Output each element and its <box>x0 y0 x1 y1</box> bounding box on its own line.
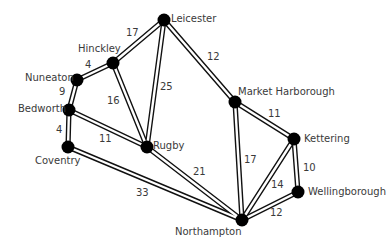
node-label-nuneaton: Nuneaton <box>25 73 74 83</box>
node-wellingborough <box>292 186 305 199</box>
node-label-hinckley: Hinckley <box>78 44 121 54</box>
node-label-northampton: Northampton <box>175 227 242 237</box>
node-northampton <box>236 214 249 227</box>
edge-weight: 14 <box>271 180 284 190</box>
node-label-coventry: Coventry <box>35 156 80 166</box>
edge-coventry-northampton <box>68 147 242 220</box>
node-leicester <box>158 14 171 27</box>
edge-weight: 33 <box>136 188 149 198</box>
edge-weight: 12 <box>270 208 283 218</box>
node-hinckley <box>107 57 120 70</box>
edge-weight: 12 <box>207 52 220 62</box>
node-coventry <box>62 141 75 154</box>
node-kettering <box>288 133 301 146</box>
node-rugby <box>141 141 154 154</box>
graph-canvas <box>0 0 386 242</box>
edge-weight: 21 <box>193 167 206 177</box>
edge-weight: 11 <box>99 134 112 144</box>
edge-weight: 17 <box>244 155 257 165</box>
edge-market-harborough-kettering <box>235 102 294 139</box>
node-label-leicester: Leicester <box>171 14 216 24</box>
node-label-kettering: Kettering <box>304 134 350 144</box>
edge-leicester-market-harborough <box>164 20 235 102</box>
edge-weight: 16 <box>107 96 120 106</box>
node-label-wellingborough: Wellingborough <box>308 187 386 197</box>
node-market-harborough <box>229 96 242 109</box>
node-label-bedworth: Bedworth <box>18 104 66 114</box>
edge-weight: 25 <box>160 82 173 92</box>
edge-weight: 17 <box>126 28 139 38</box>
edge-weight: 11 <box>268 109 281 119</box>
edge-weight: 9 <box>59 87 65 97</box>
edge-weight: 10 <box>303 163 316 173</box>
edge-weight: 4 <box>56 125 62 135</box>
node-label-market-harborough: Market Harborough <box>238 87 335 97</box>
edge-weight: 4 <box>85 60 91 70</box>
node-label-rugby: Rugby <box>153 141 184 151</box>
